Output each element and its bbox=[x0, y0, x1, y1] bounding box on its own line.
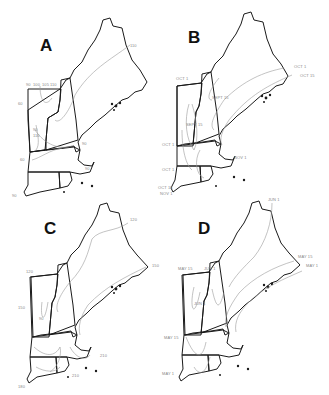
isoline-label: 90 bbox=[85, 166, 90, 171]
map-panel-b: B OCT 1 OCT 15 OCT 1 SEPT 15 SEPT 15 OCT… bbox=[164, 0, 328, 197]
isoline-label: 90 bbox=[33, 127, 38, 132]
isoline-label: OCT 1 bbox=[162, 167, 174, 172]
isoline-label: 150 bbox=[152, 263, 159, 268]
isoline-label: MAY 1 bbox=[162, 371, 174, 376]
isoline-label: 110 bbox=[130, 43, 137, 48]
isoline-label: JUN 1 bbox=[204, 266, 216, 271]
isoline-label: 210 bbox=[100, 353, 107, 358]
panel-letter: A bbox=[40, 36, 52, 56]
isoline-label: OCT 15 bbox=[158, 185, 173, 190]
isoline-label: 180 bbox=[18, 384, 25, 389]
isoline-label: MAY 15 bbox=[178, 266, 192, 271]
isoline-label: 110 bbox=[50, 82, 57, 87]
map-panel-c: C 120 150 120 150 90 210 210 180 bbox=[0, 197, 164, 394]
isoline-label: JUN 1 bbox=[268, 197, 280, 202]
isoline-label: NOV 1 bbox=[160, 191, 173, 196]
isoline-label: SEPT 15 bbox=[212, 95, 229, 100]
isoline-label: OCT 1 bbox=[294, 64, 306, 69]
isoline-label: 100 bbox=[33, 82, 40, 87]
isoline-label: 60 bbox=[20, 157, 25, 162]
isoline-label: 90 bbox=[26, 82, 31, 87]
isoline-label: MAY 15 bbox=[164, 335, 178, 340]
isoline-label: JUN 1 bbox=[194, 301, 206, 306]
new-england-map-a bbox=[0, 0, 164, 197]
isoline-label: MAY 1 bbox=[306, 263, 318, 268]
isoline-label: 110 bbox=[33, 133, 40, 138]
isoline-label: NOV 1 bbox=[234, 155, 247, 160]
isoline-label: 210 bbox=[72, 373, 79, 378]
isoline-label: 90 bbox=[39, 316, 44, 321]
isoline-label: OCT 1 bbox=[176, 76, 188, 81]
isoline-label: SEPT 15 bbox=[186, 122, 203, 127]
new-england-map-c bbox=[0, 197, 164, 394]
isoline-label: OCT 15 bbox=[300, 73, 315, 78]
isoline-label: 105 bbox=[42, 82, 49, 87]
new-england-map-d bbox=[164, 197, 328, 394]
isoline-label: 90 bbox=[82, 141, 87, 146]
isoline-label: OCT 1 bbox=[162, 142, 174, 147]
isoline-label: MAY 15 bbox=[298, 254, 312, 259]
map-panel-d: D JUN 1 MAY 15 MAY 1 MAY 15 JUN 1 JUN 1 … bbox=[164, 197, 328, 394]
isoline-label: 60 bbox=[18, 101, 23, 106]
panel-letter: D bbox=[198, 219, 210, 239]
isoline-label: 120 bbox=[26, 269, 33, 274]
isoline-label: 150 bbox=[18, 305, 25, 310]
isoline-label: 120 bbox=[130, 217, 137, 222]
panel-letter: C bbox=[44, 219, 56, 239]
map-panel-a: A 90 100 105 110 60 110 90 110 60 90 90 … bbox=[0, 0, 164, 197]
panel-letter: B bbox=[188, 28, 200, 48]
